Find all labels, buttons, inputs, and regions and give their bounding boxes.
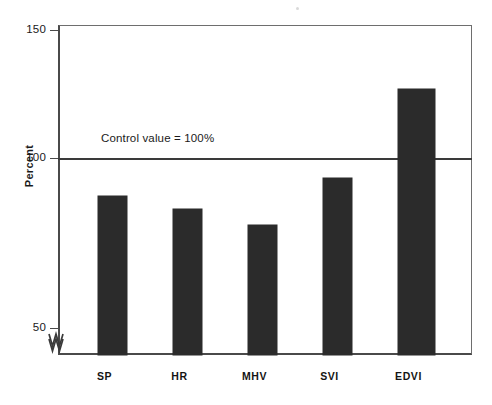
x-tick-label-svi: SVI [303, 370, 356, 382]
scan-artifact-speck [296, 7, 299, 10]
y-tick-label-100: 100 [6, 152, 46, 164]
bar-hr [173, 209, 202, 355]
x-tick-label-hr: HR [153, 370, 206, 382]
y-tick-label-150: 150 [6, 24, 46, 36]
y-tick-label-50: 50 [6, 322, 46, 334]
bars-container [58, 25, 472, 355]
bar-edvi [398, 89, 435, 355]
x-tick-label-sp: SP [78, 370, 131, 382]
y-axis-title: Percent [23, 131, 35, 201]
bar-mhv [248, 225, 277, 355]
bar-chart-figure: Percent 150 100 50 Control value = 100% … [0, 0, 492, 405]
bar-svi [323, 178, 352, 355]
x-tick-label-edvi: EDVI [382, 370, 435, 382]
x-tick-label-mhv: MHV [228, 370, 281, 382]
bar-sp [98, 196, 127, 355]
